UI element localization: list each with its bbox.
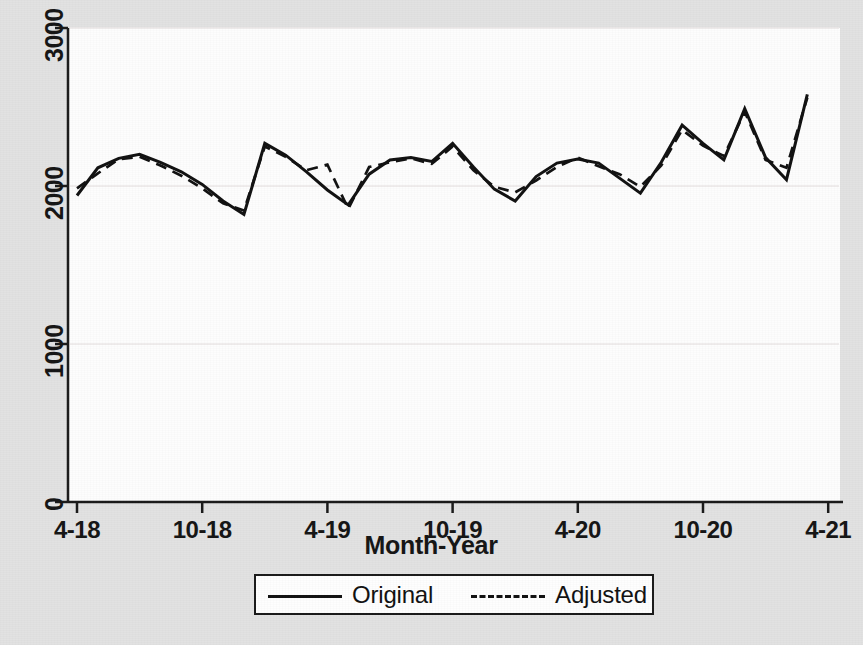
axis-lines	[68, 28, 843, 502]
x-axis-ticks	[77, 502, 828, 513]
x-axis-tick-label: 4-18	[54, 516, 100, 544]
x-axis-tick-label: 10-20	[674, 516, 733, 544]
x-axis-title: Month-Year	[364, 531, 497, 560]
x-axis-tick-label: 4-20	[555, 516, 601, 544]
y-axis-tick-label: 2000	[40, 166, 69, 220]
legend-entry-adjusted: Adjusted	[467, 576, 647, 613]
y-axis-ticks	[55, 28, 68, 502]
legend-key-dashed-line-icon	[467, 588, 549, 602]
series-line-original	[77, 94, 807, 214]
chart-legend: Original Adjusted	[254, 574, 654, 615]
legend-label-original: Original	[352, 581, 433, 609]
gridlines	[70, 28, 839, 344]
y-axis-tick-label: 0	[40, 498, 69, 511]
x-axis-tick-label: 4-19	[304, 516, 350, 544]
x-axis-tick-label: 10-18	[173, 516, 232, 544]
legend-label-adjusted: Adjusted	[555, 581, 647, 609]
data-series-group	[77, 94, 807, 214]
y-axis-tick-label: 1000	[40, 324, 69, 378]
chart-figure: 3000200010000 4-1810-184-1910-194-2010-2…	[0, 0, 863, 645]
legend-entry-original: Original	[264, 576, 433, 613]
legend-key-solid-line-icon	[264, 588, 346, 602]
y-axis-tick-label: 3000	[40, 8, 69, 62]
x-axis-tick-label: 4-21	[805, 516, 851, 544]
